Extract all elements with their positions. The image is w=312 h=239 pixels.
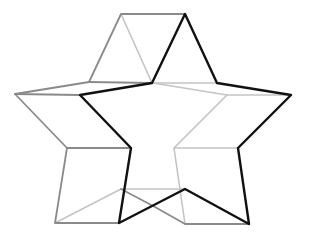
front-star-outline: [80, 14, 291, 224]
hidden-back-bottom-left: [55, 189, 121, 223]
back-star-left-outline: [15, 82, 119, 223]
star-prism-diagram: [0, 0, 312, 239]
connector-left-tip: [15, 94, 80, 95]
back-edges: [15, 14, 249, 224]
hidden-connector-top: [121, 14, 152, 83]
back-star-hidden-right-edges: [153, 83, 227, 224]
connector-left-inner: [89, 82, 152, 83]
hidden-edges: [55, 14, 291, 224]
